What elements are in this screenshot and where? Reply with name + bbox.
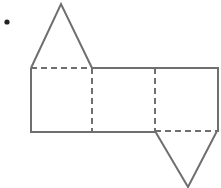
bullet-dot (4, 19, 9, 24)
bottom-triangle (155, 131, 217, 187)
top-triangle (31, 4, 92, 68)
prism-net-diagram (0, 0, 221, 188)
